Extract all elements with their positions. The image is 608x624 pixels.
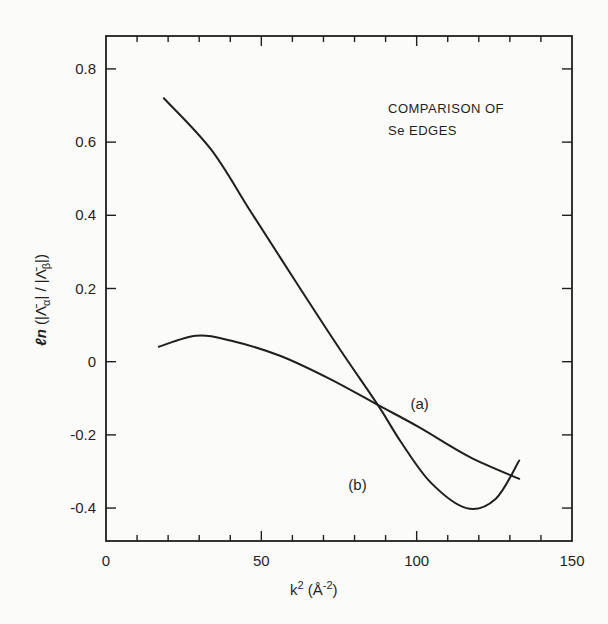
curve-label-b: (b) xyxy=(348,476,366,493)
y-tick-labels: 0.80.60.40.20-0.2-0.4 xyxy=(70,60,96,516)
curve-label-a: (a) xyxy=(410,395,428,412)
x-title-close: ) xyxy=(333,581,338,598)
y-title-ln: ℓn xyxy=(32,329,49,346)
y-title-close: |) xyxy=(32,254,49,263)
chart-canvas: 050100150 0.80.60.40.20-0.2-0.4 (a)(b) C… xyxy=(0,0,608,624)
annotation-line-2: Se EDGES xyxy=(388,123,457,138)
y-axis-title: ℓn (|Λ̄α| / |Λ̄β|) xyxy=(32,254,52,346)
y-tick-label: -0.4 xyxy=(70,499,96,516)
data-curves xyxy=(159,98,519,509)
x-tick-label: 50 xyxy=(253,552,270,569)
y-title-open: (|Λ̄ xyxy=(32,304,49,329)
x-tick-label: 100 xyxy=(404,552,429,569)
curve-b xyxy=(164,98,519,509)
y-axis-title-group: ℓn (|Λ̄α| / |Λ̄β|) xyxy=(32,254,52,346)
y-tick-label: 0.4 xyxy=(75,206,96,223)
annotation-line-1: COMPARISON OF xyxy=(388,101,504,116)
y-tick-label: -0.2 xyxy=(70,426,96,443)
x-title-unit-sup: -2 xyxy=(323,579,333,591)
y-tick-label: 0.2 xyxy=(75,280,96,297)
y-tick-label: 0.6 xyxy=(75,133,96,150)
y-tick-label: 0 xyxy=(88,353,96,370)
x-title-unit: (Å xyxy=(304,581,323,598)
x-axis-title: k2 (Å-2) xyxy=(290,579,338,598)
x-tick-label: 0 xyxy=(102,552,110,569)
y-tick-label: 0.8 xyxy=(75,60,96,77)
y-title-mid: | / |Λ̄ xyxy=(32,267,49,299)
x-tick-label: 150 xyxy=(559,552,584,569)
x-tick-labels: 050100150 xyxy=(102,552,585,569)
curve-a xyxy=(159,335,519,478)
